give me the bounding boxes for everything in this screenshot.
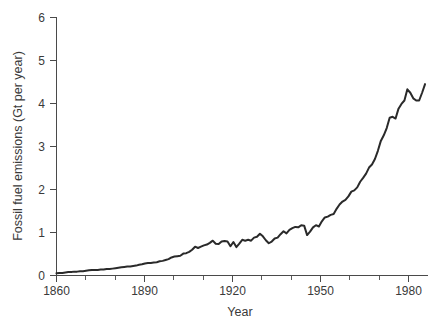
y-tick-label-5: 5 xyxy=(38,54,45,68)
x-tick-label-1890: 1890 xyxy=(131,284,158,298)
y-axis-ticks: 0 1 2 3 4 5 6 xyxy=(38,11,56,283)
y-tick-label-0: 0 xyxy=(38,269,45,283)
x-tick-label-1920: 1920 xyxy=(219,284,246,298)
x-axis-title: Year xyxy=(227,305,252,319)
emissions-line-series xyxy=(57,84,426,273)
x-axis-ticks: 1860 1890 1920 1950 1980 xyxy=(43,276,422,299)
chart-figure: 0 1 2 3 4 5 6 1860 1890 1920 xyxy=(0,0,438,327)
x-tick-label-1860: 1860 xyxy=(43,284,70,298)
x-tick-label-1950: 1950 xyxy=(307,284,334,298)
y-axis-title: Fossil fuel emissions (Gt per year) xyxy=(11,51,25,241)
y-tick-label-3: 3 xyxy=(38,140,45,154)
y-tick-label-1: 1 xyxy=(38,226,45,240)
x-tick-label-1980: 1980 xyxy=(395,284,422,298)
line-chart: 0 1 2 3 4 5 6 1860 1890 1920 xyxy=(0,0,438,327)
y-tick-label-6: 6 xyxy=(38,11,45,25)
y-tick-label-2: 2 xyxy=(38,183,45,197)
y-tick-label-4: 4 xyxy=(38,97,45,111)
